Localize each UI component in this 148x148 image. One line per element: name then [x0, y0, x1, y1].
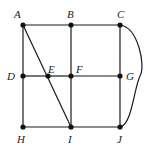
node-label-B: B [67, 8, 74, 20]
node-A [20, 22, 25, 27]
graph-diagram: ABCDEFGHIJ [0, 0, 148, 148]
node-label-J: J [117, 133, 123, 145]
node-B [68, 22, 73, 27]
node-label-C: C [117, 8, 125, 20]
node-label-I: I [67, 133, 73, 145]
node-J [117, 124, 122, 129]
node-G [117, 73, 122, 78]
node-D [20, 73, 25, 78]
node-H [20, 124, 25, 129]
node-label-G: G [126, 70, 134, 82]
node-label-E: E [47, 63, 55, 75]
node-label-D: D [6, 70, 15, 82]
node-F [68, 73, 73, 78]
edges-group [23, 25, 142, 127]
node-label-H: H [16, 133, 26, 145]
node-I [68, 124, 73, 129]
node-label-A: A [13, 8, 21, 20]
node-label-F: F [75, 63, 83, 75]
node-C [117, 22, 122, 27]
